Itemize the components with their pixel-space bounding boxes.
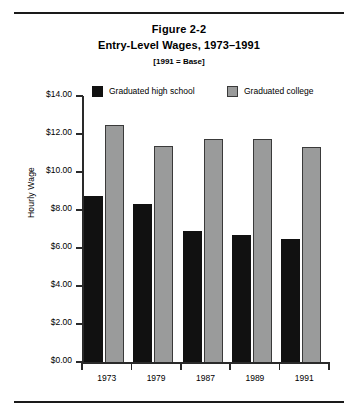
- x-axis-tick: [279, 362, 281, 370]
- plot-area: $0.00$2.00$4.00$6.00$8.00$10.00$12.00$14…: [82, 96, 329, 362]
- y-axis-tick-label: $8.00: [51, 203, 72, 213]
- figure-container: Figure 2-2 Entry-Level Wages, 1973–1991 …: [0, 0, 358, 420]
- bar-1989-college: [253, 139, 272, 362]
- x-axis-label-1979: 1979: [147, 373, 166, 383]
- x-axis-label-1973: 1973: [97, 373, 116, 383]
- x-axis-label-1987: 1987: [196, 373, 215, 383]
- title-block: Figure 2-2 Entry-Level Wages, 1973–1991 …: [0, 22, 358, 68]
- bar-1989-high-school: [232, 235, 251, 362]
- bar-1991-college: [302, 147, 321, 362]
- y-axis-tick-label: $4.00: [51, 279, 72, 289]
- bar-1973-high-school: [84, 196, 103, 362]
- y-axis-tick-label: $14.00: [46, 89, 72, 99]
- bar-1987-college: [204, 139, 223, 362]
- chart-title: Entry-Level Wages, 1973–1991: [0, 38, 358, 53]
- x-axis-tick: [180, 362, 182, 370]
- x-axis-tick: [131, 362, 133, 370]
- y-axis-tick: $6.00: [76, 247, 83, 249]
- y-axis-tick: $8.00: [76, 209, 83, 211]
- chart-subtitle-note: [1991 = Base]: [0, 56, 358, 68]
- y-axis-tick: $2.00: [76, 323, 83, 325]
- y-axis-title: Hourly Wage: [26, 167, 36, 218]
- bar-1973-college: [105, 125, 124, 363]
- y-axis-tick: $10.00: [76, 171, 83, 173]
- y-axis-tick-label: $6.00: [51, 241, 72, 251]
- y-axis-tick-label: $0.00: [51, 355, 72, 365]
- x-axis-tick-start: [81, 362, 83, 370]
- x-axis-label-1989: 1989: [245, 373, 264, 383]
- x-axis-tick: [229, 362, 231, 370]
- bar-1991-high-school: [281, 239, 300, 363]
- top-rule: [14, 12, 344, 14]
- y-axis-tick: $14.00: [76, 95, 83, 97]
- y-axis-tick: $12.00: [76, 133, 83, 135]
- bar-1987-high-school: [183, 231, 202, 362]
- x-axis-tick-end: [328, 362, 330, 370]
- y-axis-tick-label: $2.00: [51, 317, 72, 327]
- y-axis-tick-label: $12.00: [46, 127, 72, 137]
- figure-number: Figure 2-2: [0, 22, 358, 36]
- bar-1979-high-school: [133, 204, 152, 362]
- bottom-rule: [14, 401, 344, 403]
- y-axis-tick: $4.00: [76, 285, 83, 287]
- bar-1979-college: [154, 146, 173, 362]
- y-axis-tick-label: $10.00: [46, 165, 72, 175]
- x-axis-line: [82, 362, 329, 364]
- x-axis-label-1991: 1991: [295, 373, 314, 383]
